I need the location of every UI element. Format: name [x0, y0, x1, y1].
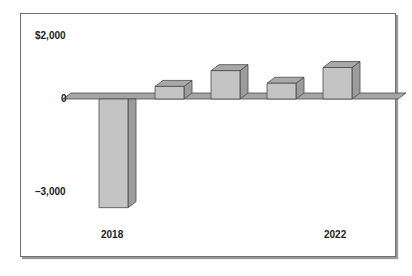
- bar-side-2018: [128, 99, 136, 208]
- bar-2019: [155, 86, 184, 99]
- y-tick-label-top: $2,000: [35, 30, 66, 41]
- bar-2021: [267, 83, 296, 99]
- x-tick-label-last: 2022: [324, 229, 346, 240]
- bar-2018: [99, 99, 128, 208]
- y-tick-label-bottom: –3,000: [35, 186, 66, 197]
- y-tick-label-zero: 0: [61, 93, 67, 104]
- x-tick-label-first: 2018: [101, 229, 123, 240]
- bar-2022: [323, 68, 352, 100]
- bar-2020: [211, 71, 240, 99]
- bar-side-2022: [352, 62, 360, 100]
- bar-chart: [0, 0, 412, 276]
